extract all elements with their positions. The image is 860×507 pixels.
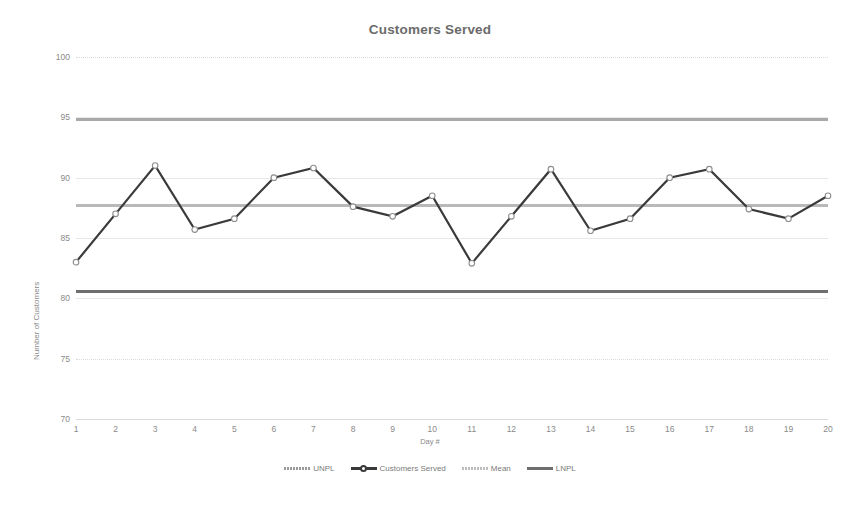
- control-chart: Customers Served 707580859095100 Number …: [0, 0, 860, 507]
- legend-swatch-customers-served-icon: [351, 467, 377, 470]
- data-point-day-14[interactable]: [588, 228, 594, 234]
- data-point-day-4[interactable]: [192, 227, 198, 233]
- data-point-day-7[interactable]: [311, 165, 317, 171]
- x-tick-label-18: 18: [735, 424, 763, 434]
- x-tick-label-2: 2: [102, 424, 130, 434]
- x-tick-label-20: 20: [814, 424, 842, 434]
- y-tick-label-100: 100: [24, 52, 70, 62]
- y-tick-label-75: 75: [24, 354, 70, 364]
- x-tick-label-14: 14: [577, 424, 605, 434]
- data-point-day-12[interactable]: [509, 213, 515, 219]
- legend-label-lnpl: LNPL: [556, 464, 576, 473]
- x-tick-label-6: 6: [260, 424, 288, 434]
- x-tick-label-17: 17: [695, 424, 723, 434]
- data-point-day-5[interactable]: [232, 216, 238, 222]
- series-customers-served: [76, 57, 828, 419]
- legend-swatch-mean-icon: [462, 467, 488, 470]
- data-point-day-6[interactable]: [271, 175, 277, 181]
- legend-label-customers-served: Customers Served: [380, 464, 446, 473]
- y-tick-label-90: 90: [24, 173, 70, 183]
- y-tick-label-80: 80: [24, 293, 70, 303]
- plot-area: [76, 57, 828, 419]
- y-axis-label: Number of Customers: [32, 282, 41, 360]
- x-tick-label-3: 3: [141, 424, 169, 434]
- x-tick-label-9: 9: [379, 424, 407, 434]
- data-point-day-10[interactable]: [429, 193, 435, 199]
- y-tick-label-70: 70: [24, 414, 70, 424]
- legend-item-customers-served[interactable]: Customers Served: [351, 464, 446, 473]
- data-point-day-17[interactable]: [706, 166, 712, 172]
- data-point-day-16[interactable]: [667, 175, 673, 181]
- y-tick-label-85: 85: [24, 233, 70, 243]
- legend-item-lnpl[interactable]: LNPL: [527, 464, 576, 473]
- data-point-day-15[interactable]: [627, 216, 633, 222]
- x-axis-line: [76, 419, 828, 420]
- chart-title: Customers Served: [0, 22, 860, 37]
- legend-swatch-unpl-icon: [284, 467, 310, 470]
- legend-swatch-lnpl-icon: [527, 467, 553, 470]
- x-tick-label-4: 4: [181, 424, 209, 434]
- x-tick-label-7: 7: [299, 424, 327, 434]
- data-point-day-8[interactable]: [350, 204, 356, 210]
- x-tick-label-15: 15: [616, 424, 644, 434]
- data-point-day-19[interactable]: [786, 216, 792, 222]
- data-point-day-11[interactable]: [469, 261, 475, 267]
- data-point-day-2[interactable]: [113, 211, 119, 217]
- legend-label-unpl: UNPL: [313, 464, 334, 473]
- x-axis-label: Day #: [0, 437, 860, 446]
- x-tick-label-10: 10: [418, 424, 446, 434]
- x-tick-label-1: 1: [62, 424, 90, 434]
- x-tick-label-5: 5: [220, 424, 248, 434]
- x-tick-label-16: 16: [656, 424, 684, 434]
- x-tick-label-13: 13: [537, 424, 565, 434]
- x-tick-label-19: 19: [774, 424, 802, 434]
- chart-legend: UNPL Customers Served Mean LNPL: [0, 464, 860, 473]
- data-point-day-3[interactable]: [152, 163, 158, 169]
- legend-label-mean: Mean: [491, 464, 511, 473]
- x-tick-label-8: 8: [339, 424, 367, 434]
- data-point-day-20[interactable]: [825, 193, 831, 199]
- series-polyline: [76, 166, 828, 264]
- y-tick-label-95: 95: [24, 112, 70, 122]
- data-point-day-9[interactable]: [390, 213, 396, 219]
- data-point-day-1[interactable]: [73, 259, 79, 265]
- data-point-day-18[interactable]: [746, 206, 752, 212]
- y-axis-ticks: 707580859095100: [18, 57, 70, 419]
- data-point-day-13[interactable]: [548, 166, 554, 172]
- x-tick-label-12: 12: [497, 424, 525, 434]
- legend-item-mean[interactable]: Mean: [462, 464, 511, 473]
- legend-item-unpl[interactable]: UNPL: [284, 464, 334, 473]
- x-tick-label-11: 11: [458, 424, 486, 434]
